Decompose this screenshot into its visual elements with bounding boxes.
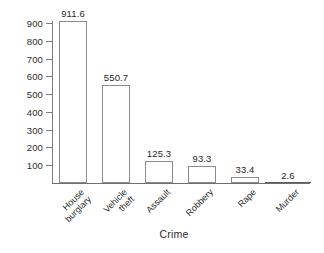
bar-value-label: 2.6 bbox=[264, 171, 312, 181]
y-axis-tick bbox=[46, 165, 53, 166]
bar bbox=[231, 177, 259, 183]
x-axis-title: Crime bbox=[0, 228, 324, 240]
x-axis-title-text: Crime bbox=[160, 228, 189, 240]
bar bbox=[188, 166, 216, 183]
y-axis-line bbox=[52, 21, 53, 184]
y-axis-tick bbox=[46, 23, 53, 24]
y-axis-tick-label: 900 bbox=[9, 19, 43, 29]
plot-area: 100200300400500600700800900 911.6550.712… bbox=[0, 0, 324, 253]
y-axis-tick-label: 600 bbox=[9, 72, 43, 82]
y-axis-tick-label: 800 bbox=[9, 36, 43, 46]
bar bbox=[102, 85, 130, 183]
bar bbox=[265, 182, 311, 183]
y-axis-tick-label: 200 bbox=[9, 143, 43, 153]
y-axis-tick bbox=[46, 147, 53, 148]
y-axis-tick bbox=[46, 112, 53, 113]
bar-chart: 100200300400500600700800900 911.6550.712… bbox=[0, 0, 324, 253]
y-axis-tick-label: 100 bbox=[9, 161, 43, 171]
bar bbox=[145, 161, 173, 183]
y-axis-tick-label: 500 bbox=[9, 90, 43, 100]
y-axis-tick-label: 400 bbox=[9, 107, 43, 117]
bar-value-label: 125.3 bbox=[135, 149, 183, 159]
y-axis-tick bbox=[46, 41, 53, 42]
y-axis-tick bbox=[46, 59, 53, 60]
y-axis-tick bbox=[46, 94, 53, 95]
y-axis-tick bbox=[46, 76, 53, 77]
y-axis-tick bbox=[46, 130, 53, 131]
y-axis-tick-label: 300 bbox=[9, 125, 43, 135]
bar-value-label: 33.4 bbox=[221, 165, 269, 175]
bar-value-label: 93.3 bbox=[178, 154, 226, 164]
bar bbox=[59, 21, 87, 183]
bar-value-label: 550.7 bbox=[92, 73, 140, 83]
y-axis-tick-label: 700 bbox=[9, 54, 43, 64]
bar-value-label: 911.6 bbox=[49, 9, 97, 19]
x-axis-line bbox=[52, 183, 310, 184]
